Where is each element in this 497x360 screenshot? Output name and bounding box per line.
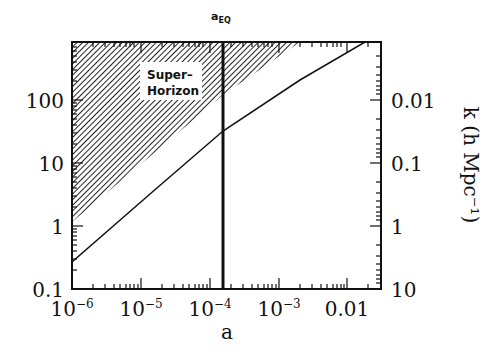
y-right-axis-label: k (h Mpc⁻¹) [459, 107, 483, 223]
x-tick-1e-6: 10−6 [50, 297, 93, 321]
y-left-tick-1: 1 [51, 215, 64, 239]
x-tick-1e-3: 10−3 [257, 297, 300, 321]
y-right-tick-1: 1 [391, 215, 404, 239]
y-right-tick-10: 10 [391, 278, 416, 302]
y-left-tick-10: 10 [39, 152, 64, 176]
x-tick-0.01: 0.01 [325, 297, 370, 321]
x-tick-1e-4: 10−4 [188, 297, 232, 321]
region-label-line2: Horizon [147, 84, 199, 98]
region-label-line1: Super– [147, 68, 193, 82]
y-right-tick-0.1: 0.1 [391, 152, 423, 176]
chart-canvas: Super– Horizon aEQ 100 10 1 0 [0, 0, 497, 360]
y-left-tick-100: 100 [26, 89, 64, 113]
x-tick-1e-5: 10−5 [119, 297, 162, 321]
x-axis-label: a [221, 320, 233, 344]
y-right-tick-0.01: 0.01 [391, 89, 436, 113]
aeq-label: aEQ [211, 10, 231, 25]
